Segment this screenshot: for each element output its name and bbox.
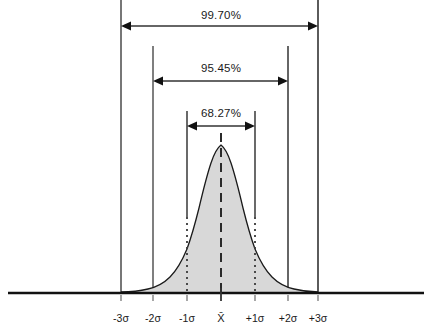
interval-arrowhead-right-sigma1 [245, 122, 255, 131]
chart-canvas: 99.70% 95.45% 68.27% -3σ -2σ -1σ X̄ +1σ … [0, 0, 431, 334]
interval-label-sigma2: 95.45% [201, 62, 241, 74]
interval-annotation-sigma1: 68.27% [187, 107, 255, 131]
interval-arrowhead-right-sigma2 [278, 77, 288, 86]
axis-label-pos2sigma: +2σ [279, 312, 298, 324]
axis-label-pos3sigma: +3σ [309, 312, 328, 324]
interval-label-sigma1: 68.27% [201, 107, 241, 119]
interval-arrowhead-left-sigma3 [121, 22, 131, 31]
axis-label-mean: X̄ [217, 312, 225, 324]
axis-label-neg2sigma: -2σ [145, 312, 161, 324]
normal-distribution-chart: 99.70% 95.45% 68.27% -3σ -2σ -1σ X̄ +1σ … [0, 0, 431, 334]
interval-annotation-sigma2: 95.45% [153, 62, 288, 86]
axis-label-neg1sigma: -1σ [179, 312, 195, 324]
axis-label-pos1sigma: +1σ [246, 312, 265, 324]
interval-annotation-sigma3: 99.70% [121, 9, 318, 31]
interval-arrowhead-left-sigma2 [153, 77, 163, 86]
interval-arrowhead-right-sigma3 [308, 22, 318, 31]
interval-label-sigma3: 99.70% [201, 9, 241, 21]
axis-tick-labels-group: -3σ -2σ -1σ X̄ +1σ +2σ +3σ [113, 312, 328, 324]
axis-label-neg3sigma: -3σ [113, 312, 129, 324]
interval-arrowhead-left-sigma1 [187, 122, 197, 131]
